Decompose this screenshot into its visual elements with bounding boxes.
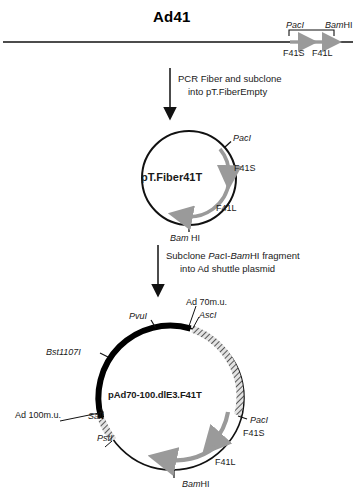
plasmid-2-sali-label: SalI	[88, 411, 104, 421]
genome-bamhi-label: BamHI	[325, 20, 353, 30]
ad41-linear-genome	[3, 30, 353, 42]
step-1-line-2: into pT.FiberEmpty	[188, 86, 267, 99]
plasmid-1-name: pT.Fiber41T	[141, 171, 202, 183]
plasmid-2-paci-label: PacI	[250, 415, 268, 425]
plasmid-2-asci-label: AscI	[199, 310, 217, 320]
plasmid-2-ad100-label: Ad 100m.u.	[15, 410, 61, 420]
plasmid-2-ad70-label: Ad 70m.u.	[186, 297, 227, 307]
plasmid-2-name: pAd70-100.dlE3.F41T	[108, 390, 202, 401]
genome-f41l-label: F41L	[312, 48, 333, 58]
plasmid-2-bamhi-label: BamHI	[182, 479, 210, 489]
plasmid-2-psti-label: PstI	[97, 433, 113, 443]
plasmid-2-bst1107i-label: Bst1107I	[46, 347, 81, 357]
plasmid-1-f41s-label: F41S	[234, 163, 256, 173]
plasmid-1-f41l-label: F41L	[216, 203, 237, 213]
step-2-line-2: into Ad shuttle plasmid	[180, 263, 275, 276]
plasmid-2-f41s-label: F41S	[243, 428, 265, 438]
plasmid-1-paci-label: PacI	[233, 133, 251, 143]
page-title: Ad41	[153, 9, 190, 26]
plasmid-2-f41l-label: F41L	[215, 457, 236, 467]
plasmid-1-bamhi-label: Bam HI	[170, 233, 200, 243]
step-2-line-1: Subclone PacI-BamHI fragment	[166, 250, 300, 263]
plasmid-construction-diagram: Ad41 PacI BamHI F41S F41L PCR Fiber and …	[0, 0, 356, 501]
plasmid-2-pvui-label: PvuI	[129, 311, 147, 321]
step-1-line-1: PCR Fiber and subclone	[178, 73, 282, 86]
genome-paci-label: PacI	[286, 20, 304, 30]
genome-f41s-label: F41S	[283, 48, 305, 58]
